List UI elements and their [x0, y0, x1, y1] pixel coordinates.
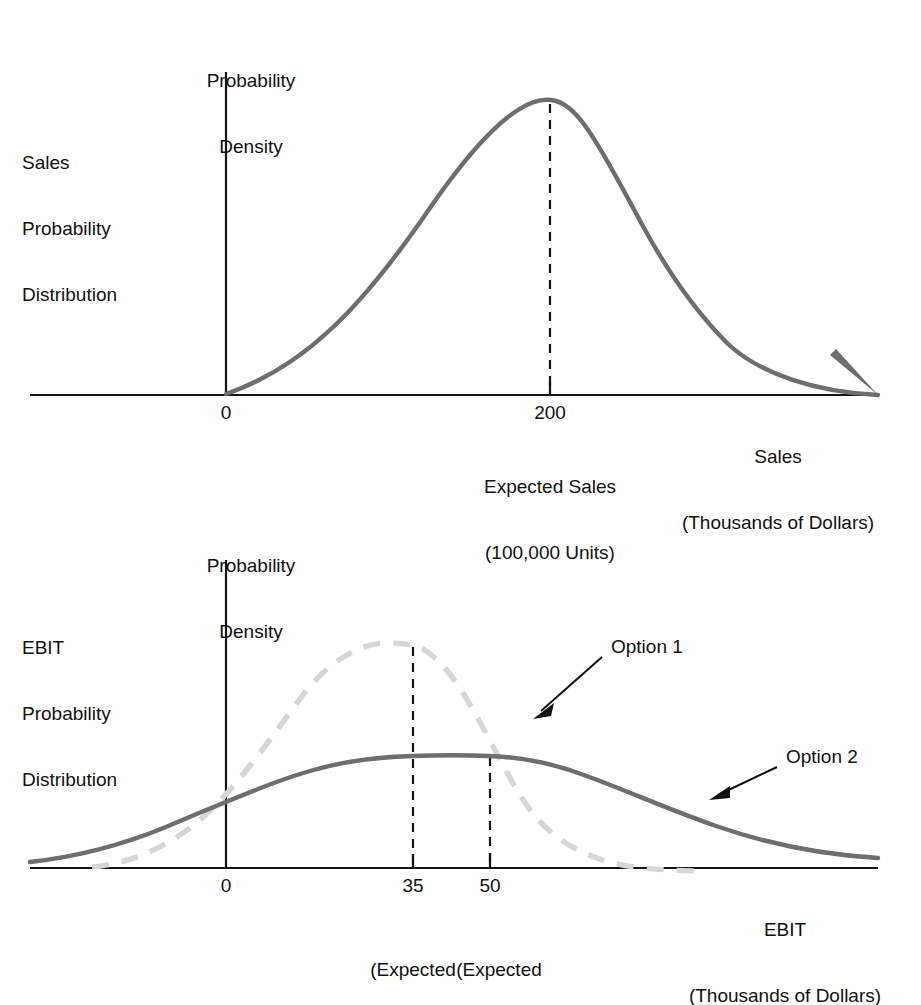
sales-y-axis-label: Probability Density	[176, 26, 326, 202]
ebit-y-axis-label: Probability Density	[176, 511, 326, 687]
ebit-option2-series-label: Option 2	[786, 746, 906, 768]
sales-tick-label-0: 0	[206, 402, 246, 424]
ebit-option2-expected-callout: (Expected EBIT Option 2)	[419, 915, 579, 1005]
ebit-option1-arrow-line	[541, 657, 602, 711]
sales-tick-label-200: 200	[522, 402, 578, 424]
ebit-x-axis-label: EBIT (Thousands of Dollars)	[660, 875, 910, 1005]
ebit-option2-arrow-head	[709, 786, 730, 800]
ebit-tick-label-50: 50	[468, 875, 512, 897]
ebit-tick-label-0: 0	[206, 875, 246, 897]
ebit-option1-series-label: Option 1	[611, 636, 731, 658]
ebit-tick-label-35: 35	[391, 875, 435, 897]
ebit-panel-title: EBIT Probability Distribution	[22, 593, 192, 835]
ebit-option1-arrow-head	[533, 703, 554, 719]
figure-canvas: Probability Density Sales Probability Di…	[0, 0, 921, 1005]
sales-panel-title: Sales Probability Distribution	[22, 108, 182, 350]
sales-axis-arrowhead	[830, 349, 878, 395]
